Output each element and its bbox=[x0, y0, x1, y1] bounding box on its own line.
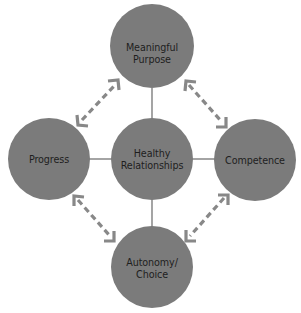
node-label: Progress bbox=[29, 154, 69, 165]
arrow-progress-autonomy bbox=[74, 196, 114, 241]
node-label: Choice bbox=[136, 269, 168, 280]
arrow-progress-purpose bbox=[77, 80, 119, 126]
node-autonomy-choice: Autonomy/ Choice bbox=[111, 226, 193, 308]
node-label: Relationships bbox=[121, 160, 184, 171]
node-meaningful-purpose: Meaningful Purpose bbox=[110, 4, 194, 88]
arrow-competence-autonomy bbox=[186, 195, 228, 241]
node-label: Competence bbox=[225, 155, 285, 166]
arrow-purpose-competence bbox=[185, 81, 226, 127]
node-label: Healthy bbox=[134, 148, 171, 159]
node-label: Meaningful bbox=[126, 42, 178, 53]
node-healthy-relationships: Healthy Relationships bbox=[111, 118, 193, 200]
relationship-diagram: Meaningful Purpose Progress Healthy Rela… bbox=[0, 0, 301, 313]
node-competence: Competence bbox=[214, 119, 296, 201]
node-label: Autonomy/ bbox=[126, 257, 178, 268]
node-progress: Progress bbox=[8, 118, 90, 200]
node-label: Purpose bbox=[133, 54, 171, 65]
